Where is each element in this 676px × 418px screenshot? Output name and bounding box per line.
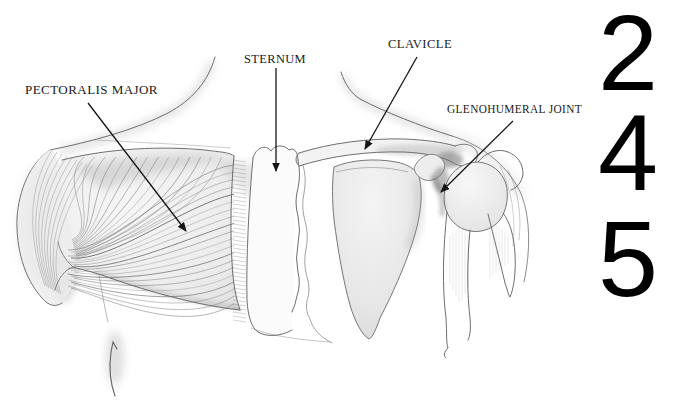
question-numbers: 2 4 5 (598, 0, 658, 319)
humerus-bone (414, 150, 523, 358)
shoulder-anatomy-illustration: PECTORALIS MAJOR STERNUM CLAVICLE GLENOH… (0, 0, 676, 418)
label-glenohumeral-joint: GLENOHUMERAL JOINT (447, 102, 582, 116)
label-pectoralis-major: PECTORALIS MAJOR (25, 83, 158, 97)
label-sternum: STERNUM (244, 52, 306, 66)
anatomy-labels: PECTORALIS MAJOR STERNUM CLAVICLE GLENOH… (25, 37, 582, 116)
label-clavicle: CLAVICLE (388, 37, 452, 51)
question-number-3: 5 (598, 198, 658, 319)
scapula-bone (333, 160, 422, 339)
sternum-bone (247, 146, 300, 336)
question-number-2: 4 (598, 92, 658, 213)
anatomy-worksheet: PECTORALIS MAJOR STERNUM CLAVICLE GLENOH… (0, 0, 676, 418)
